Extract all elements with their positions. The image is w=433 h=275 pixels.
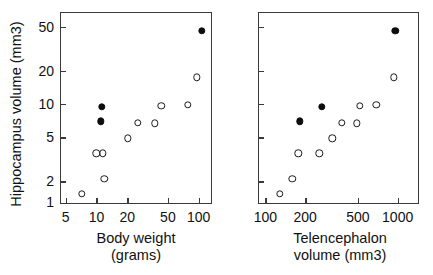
data-point-open: [373, 101, 380, 108]
x-tick-label-1000: 1000: [382, 209, 413, 225]
y-tick-5: [258, 137, 264, 138]
y-tick-label-50: 50: [38, 19, 54, 35]
x-axis-title-right-line2: volume (mm3): [240, 247, 433, 264]
x-tick-100: [265, 198, 266, 204]
y-tick-20: [258, 71, 264, 72]
x-tick-label-10: 10: [89, 209, 105, 225]
x-axis-title-right-line1: Telencephalon: [240, 230, 433, 247]
y-tick-2: [60, 181, 66, 182]
data-point-open: [338, 119, 345, 126]
x-tick-100: [199, 198, 200, 204]
y-tick-10: [258, 104, 264, 105]
data-point-open: [124, 135, 131, 142]
x-tick-20: [127, 198, 128, 204]
data-point-filled: [392, 27, 399, 34]
y-tick-label-2: 2: [46, 173, 54, 189]
plot-area-right: 1002005001000: [258, 12, 419, 204]
y-tick-label-10: 10: [38, 96, 54, 112]
x-tick-500: [358, 198, 359, 204]
x-tick-1000: [398, 198, 399, 204]
data-point-filled: [296, 118, 303, 125]
data-point-open: [100, 175, 107, 182]
data-point-open: [193, 74, 200, 81]
y-tick-label-bottom: 1: [46, 194, 54, 210]
x-tick-50: [168, 198, 169, 204]
y-tick-20: [60, 71, 66, 72]
data-point-open: [99, 149, 106, 156]
y-tick-label-5: 5: [46, 129, 54, 145]
data-point-open: [158, 102, 165, 109]
data-point-filled: [198, 27, 205, 34]
x-tick-label-50: 50: [160, 209, 176, 225]
data-point-open: [151, 120, 158, 127]
data-point-filled: [318, 103, 325, 110]
data-point-open: [315, 149, 322, 156]
panel-telencephalon-volume: 1002005001000: [258, 12, 419, 204]
x-tick-10: [96, 198, 97, 204]
data-point-open: [328, 135, 335, 142]
y-tick-5: [60, 137, 66, 138]
x-tick-label-5: 5: [62, 209, 70, 225]
x-tick-label-200: 200: [293, 209, 316, 225]
data-point-filled: [97, 118, 104, 125]
x-tick-5: [66, 198, 67, 204]
data-point-open: [289, 175, 296, 182]
y-tick-10: [60, 104, 66, 105]
panel-body-weight: 2510205015102050100: [60, 12, 212, 204]
plot-area-left: 2510205015102050100: [60, 12, 212, 204]
figure-container: Hippocampus volume (mm3) 251020501510205…: [0, 0, 433, 275]
x-axis-title-left: Body weight (grams): [36, 230, 236, 264]
y-tick-50: [60, 27, 66, 28]
data-point-open: [276, 190, 283, 197]
x-tick-200: [305, 198, 306, 204]
x-axis-title-right: Telencephalon volume (mm3): [240, 230, 433, 264]
data-point-filled: [98, 103, 105, 110]
data-point-open: [134, 119, 141, 126]
x-tick-label-500: 500: [346, 209, 369, 225]
y-tick-50: [258, 27, 264, 28]
y-tick-2: [258, 181, 264, 182]
data-point-open: [184, 101, 191, 108]
data-point-open: [78, 190, 85, 197]
x-tick-label-100: 100: [187, 209, 210, 225]
x-axis-title-left-line2: (grams): [36, 247, 236, 264]
data-point-open: [356, 102, 363, 109]
y-axis-title: Hippocampus volume (mm3): [8, 7, 28, 222]
y-tick-label-20: 20: [38, 63, 54, 79]
data-point-open: [390, 74, 397, 81]
x-tick-label-20: 20: [119, 209, 135, 225]
data-point-open: [353, 120, 360, 127]
data-point-open: [295, 149, 302, 156]
x-axis-title-left-line1: Body weight: [36, 230, 236, 247]
x-tick-label-100: 100: [254, 209, 277, 225]
